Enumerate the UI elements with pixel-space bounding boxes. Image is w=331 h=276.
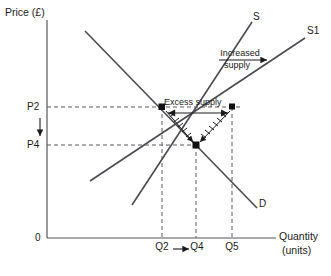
supply-curve-original-label: S [253,11,260,22]
quantity-tick-q5: Q5 [220,241,244,252]
x-axis-label-line1: Quantity [279,231,318,242]
x-axis-label-line2: (units) [282,245,311,256]
supply-at-p2-point [229,104,235,110]
increased-supply-label-line2: supply [213,60,261,71]
supply-curve-new [90,38,305,181]
origin-label: 0 [35,232,41,243]
new-equilibrium-point [193,142,200,149]
right-convergence-arrow [200,111,230,142]
supply-curve-new-label: S1 [307,25,319,36]
increased-supply-label-line1: Increased [213,48,267,59]
supply-demand-diagram: Price (£) Quantity (units) 0 P2 P4 Q2 Q4… [0,0,331,276]
quantity-tick-q4: Q4 [185,241,209,252]
excess-supply-label: Excess supply [164,97,222,108]
quantity-tick-q2: Q2 [150,241,174,252]
price-tick-p2: P2 [27,101,39,112]
y-axis-label: Price (£) [5,7,45,18]
demand-curve-label: D [259,198,266,209]
price-tick-p4: P4 [27,139,39,150]
